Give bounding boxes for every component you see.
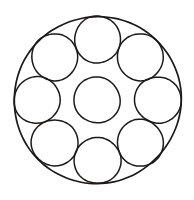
- figure-background: [0, 0, 194, 200]
- circle-packing-figure: [0, 0, 194, 200]
- circle-packing-canvas: [0, 0, 194, 200]
